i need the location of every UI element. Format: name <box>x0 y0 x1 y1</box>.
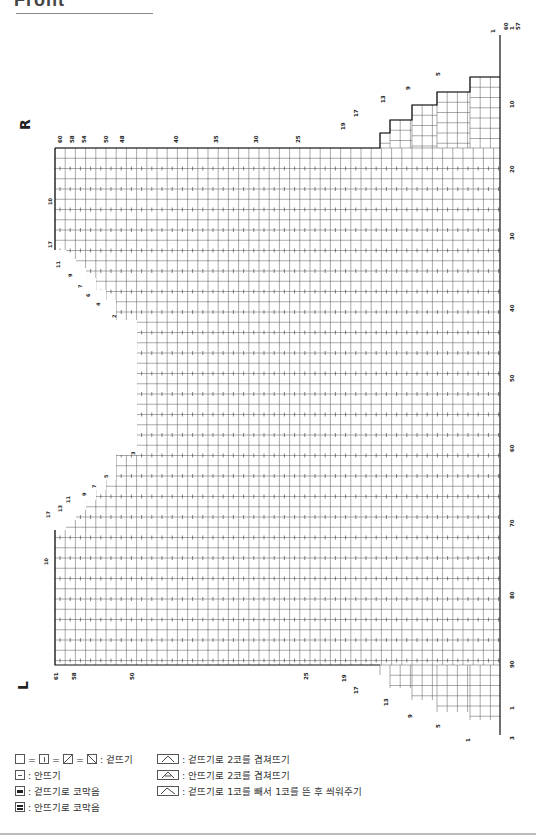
svg-text:50: 50 <box>129 672 135 680</box>
svg-text:1: 1 <box>465 738 471 742</box>
legend-label: : 안뜨기 <box>28 768 61 782</box>
legend-label: : 겉뜨기로 2코를 겹쳐뜨기 <box>182 752 290 766</box>
svg-text:10: 10 <box>509 100 515 108</box>
svg-text:13: 13 <box>380 95 386 103</box>
svg-text:48: 48 <box>119 135 125 143</box>
svg-text:9: 9 <box>67 273 73 277</box>
legend-item-p2tog: : 안뜨기로 2코를 겹쳐뜨기 <box>157 768 290 782</box>
svg-text:60: 60 <box>509 444 515 452</box>
svg-text:6: 6 <box>85 293 91 297</box>
svg-text:17: 17 <box>47 241 53 248</box>
legend-item-purl: : 안뜨기 <box>15 768 61 782</box>
legend-item-k2tog: : 겉뜨기로 2코를 겹쳐뜨기 <box>157 752 290 766</box>
page-divider <box>0 833 536 835</box>
svg-text:7: 7 <box>77 284 83 288</box>
svg-text:13: 13 <box>57 505 63 512</box>
svg-text:L: L <box>15 681 31 690</box>
legend-item-skp: : 겉뜨기로 1코를 빼서 1코를 뜬 후 씌워주기 <box>157 784 362 798</box>
svg-text:9: 9 <box>81 492 87 496</box>
svg-text:9: 9 <box>405 86 411 90</box>
knit-backslash-icon <box>87 754 97 764</box>
skp-icon <box>157 786 179 796</box>
svg-text:11: 11 <box>55 261 61 268</box>
svg-text:80: 80 <box>509 591 515 599</box>
svg-text:R: R <box>17 119 33 130</box>
svg-text:61: 61 <box>53 672 59 680</box>
svg-text:13: 13 <box>383 698 389 706</box>
svg-text:58: 58 <box>69 135 75 143</box>
legend-label: : 겉뜨기로 코막음 <box>28 784 100 798</box>
svg-text:10: 10 <box>43 558 49 565</box>
svg-text:9: 9 <box>407 714 413 718</box>
bind-off-knit-icon <box>15 786 25 796</box>
svg-text:17: 17 <box>353 109 359 117</box>
svg-text:50: 50 <box>103 135 109 143</box>
svg-text:30: 30 <box>253 135 259 143</box>
knit-blank-icon <box>15 754 25 764</box>
knit-slash-icon <box>63 754 73 764</box>
svg-text:2: 2 <box>111 314 117 318</box>
svg-text:5: 5 <box>435 724 441 728</box>
svg-text:35: 35 <box>213 135 219 143</box>
legend-label: : 겉뜨기 <box>100 752 133 766</box>
svg-text:40: 40 <box>509 304 515 312</box>
legend-label: : 겉뜨기로 1코를 빼서 1코를 뜬 후 씌워주기 <box>182 784 362 798</box>
svg-text:4: 4 <box>95 302 101 306</box>
legend-item-bind-off-purl: : 안뜨기로 코막음 <box>15 800 100 814</box>
svg-text:1: 1 <box>509 706 515 710</box>
svg-text:7: 7 <box>91 484 97 488</box>
svg-text:30: 30 <box>509 232 515 240</box>
svg-text:17: 17 <box>45 511 51 518</box>
purl-icon <box>15 770 25 780</box>
svg-text:57: 57 <box>515 22 521 30</box>
svg-text:54: 54 <box>81 135 87 143</box>
p2tog-icon <box>157 770 179 780</box>
legend-label: : 안뜨기로 코막음 <box>28 800 100 814</box>
svg-text:19: 19 <box>340 122 346 130</box>
svg-text:5: 5 <box>103 474 109 478</box>
svg-text:3: 3 <box>509 736 515 740</box>
svg-text:20: 20 <box>509 165 515 173</box>
svg-text:50: 50 <box>509 374 515 382</box>
svg-text:1: 1 <box>509 26 515 30</box>
svg-text:19: 19 <box>341 674 347 682</box>
svg-text:1: 1 <box>490 29 496 33</box>
svg-text:70: 70 <box>509 519 515 527</box>
knit-bar-icon <box>39 754 49 764</box>
legend-item-knit: = = = : 겉뜨기 <box>15 752 133 766</box>
svg-text:58: 58 <box>71 672 77 680</box>
svg-text:25: 25 <box>303 672 309 680</box>
legend-item-bind-off-knit: : 겉뜨기로 코막음 <box>15 784 100 798</box>
svg-text:17: 17 <box>353 686 359 694</box>
svg-text:11: 11 <box>65 496 71 503</box>
svg-text:40: 40 <box>173 135 179 143</box>
svg-text:3: 3 <box>130 451 136 455</box>
k2tog-icon <box>157 754 179 764</box>
svg-text:5: 5 <box>435 72 441 76</box>
svg-text:10: 10 <box>47 198 53 205</box>
svg-text:60: 60 <box>57 135 63 143</box>
legend-label: : 안뜨기로 2코를 겹쳐뜨기 <box>182 768 290 782</box>
svg-text:25: 25 <box>295 135 301 143</box>
knitting-chart: RL60585450484035302519171395160576158502… <box>0 0 536 750</box>
bind-off-purl-icon <box>15 802 25 812</box>
svg-text:90: 90 <box>509 660 515 668</box>
